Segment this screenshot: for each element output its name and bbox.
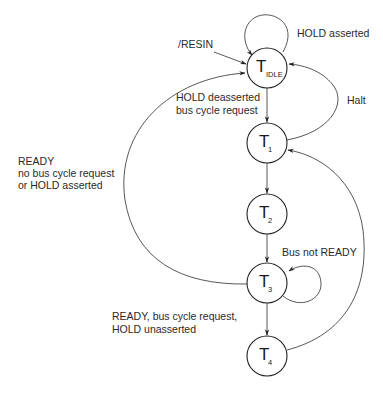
state-t4-sub: 4 (268, 358, 272, 367)
state-idle-circle (247, 48, 287, 88)
state-t3: T 3 (247, 263, 287, 303)
label-ready-bottom-1: READY, bus cycle request, (112, 310, 237, 322)
label-ready-left-3: or HOLD asserted (18, 179, 103, 191)
state-t2-sub: 2 (268, 216, 272, 225)
label-ready-left-1: READY (18, 155, 54, 167)
state-t1: T 1 (247, 123, 287, 163)
state-idle: T IDLE (247, 48, 287, 88)
state-t1-sub: 1 (268, 145, 272, 154)
label-resin: /RESIN (178, 38, 213, 50)
label-ready-left-2: no bus cycle request (18, 167, 114, 179)
label-hold-deasserted-1: HOLD deasserted (176, 91, 260, 103)
label-ready-bottom-2: HOLD unasserted (112, 323, 196, 335)
state-t4: T 4 (247, 336, 287, 376)
state-idle-main: T (256, 57, 266, 76)
edge-resin-to-idle (214, 52, 246, 64)
state-t3-sub: 3 (268, 285, 272, 294)
state-t2: T 2 (247, 194, 287, 234)
label-bus-not-ready: Bus not READY (282, 246, 357, 258)
label-hold-asserted: HOLD asserted (297, 27, 370, 39)
label-halt: Halt (347, 94, 366, 106)
edge-t1-to-idle-halt (287, 64, 338, 140)
state-idle-sub: IDLE (266, 70, 283, 79)
state-diagram: T IDLE T 1 T 2 T 3 T 4 /RESIN HOLD asser… (0, 0, 383, 398)
edge-t3-self-loop (283, 266, 321, 303)
label-hold-deasserted-2: bus cycle request (176, 104, 258, 116)
